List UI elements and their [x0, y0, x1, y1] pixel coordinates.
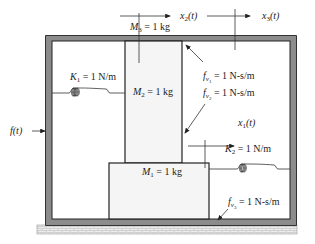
label-m3: M3 = 1 kg — [129, 21, 170, 34]
label-x2: x2(t) — [179, 10, 198, 23]
label-x3: x3(t) — [261, 10, 280, 23]
mass-m2 — [125, 41, 182, 163]
ground — [37, 225, 297, 234]
mechanical-system-diagram: M3 = 1 kg x2(t) x3(t) K1 = 1 N/m M2 = 1 … — [0, 0, 315, 244]
label-force: f(t) — [10, 125, 23, 137]
